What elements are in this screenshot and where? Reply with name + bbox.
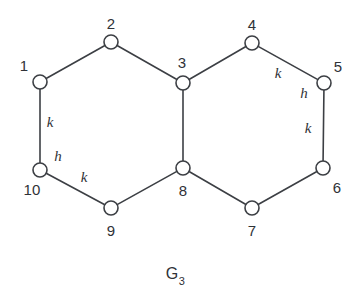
graph-vertex-6 bbox=[316, 161, 330, 175]
graph-edge-8-9 bbox=[117, 171, 177, 204]
graph-edge-6-7 bbox=[258, 171, 317, 204]
vertex-label-5: 5 bbox=[334, 59, 343, 74]
graph-vertex-7 bbox=[245, 201, 259, 215]
vertex-label-7: 7 bbox=[248, 223, 257, 238]
caption-subscript: 3 bbox=[179, 276, 185, 288]
graph-edge-9-10 bbox=[46, 173, 105, 204]
edge-weight-4-5: k bbox=[275, 66, 282, 81]
edge-weight-5-6: k bbox=[305, 121, 312, 136]
vertex-label-3: 3 bbox=[178, 55, 187, 70]
vertex-label-9: 9 bbox=[107, 223, 116, 238]
vertex-label-8: 8 bbox=[179, 183, 188, 198]
graph-vertex-10 bbox=[33, 163, 47, 177]
graph-vertex-4 bbox=[245, 36, 259, 50]
graph-canvas bbox=[0, 0, 350, 303]
vertex-label-2: 2 bbox=[107, 16, 116, 31]
graph-vertex-3 bbox=[176, 76, 190, 90]
graph-edge-1-2 bbox=[46, 45, 105, 78]
caption-base: G bbox=[166, 265, 178, 282]
graph-edge-7-8 bbox=[189, 172, 246, 205]
graph-vertex-1 bbox=[33, 75, 47, 89]
vertex-label-10: 10 bbox=[23, 182, 40, 197]
figure-caption: G3 bbox=[166, 266, 185, 285]
edge-weight-10-1: k bbox=[47, 115, 54, 130]
edge-weight-9-10: k bbox=[81, 170, 88, 185]
graph-edge-3-4 bbox=[189, 47, 246, 80]
graph-vertex-5 bbox=[317, 76, 331, 90]
graph-vertex-9 bbox=[104, 201, 118, 215]
figure-container: 12345678910kkkkhh G3 bbox=[0, 0, 350, 303]
vertex-label-1: 1 bbox=[20, 58, 29, 73]
graph-edge-4-5 bbox=[258, 46, 318, 79]
edge-weight-h-right: h bbox=[300, 86, 308, 101]
graph-vertex-8 bbox=[176, 161, 190, 175]
graph-edge-5-6 bbox=[323, 90, 324, 161]
graph-edge-2-3 bbox=[117, 45, 177, 79]
edge-weight-h-left: h bbox=[54, 149, 62, 164]
vertex-label-6: 6 bbox=[333, 180, 342, 195]
vertex-label-4: 4 bbox=[248, 17, 257, 32]
graph-vertex-2 bbox=[104, 35, 118, 49]
